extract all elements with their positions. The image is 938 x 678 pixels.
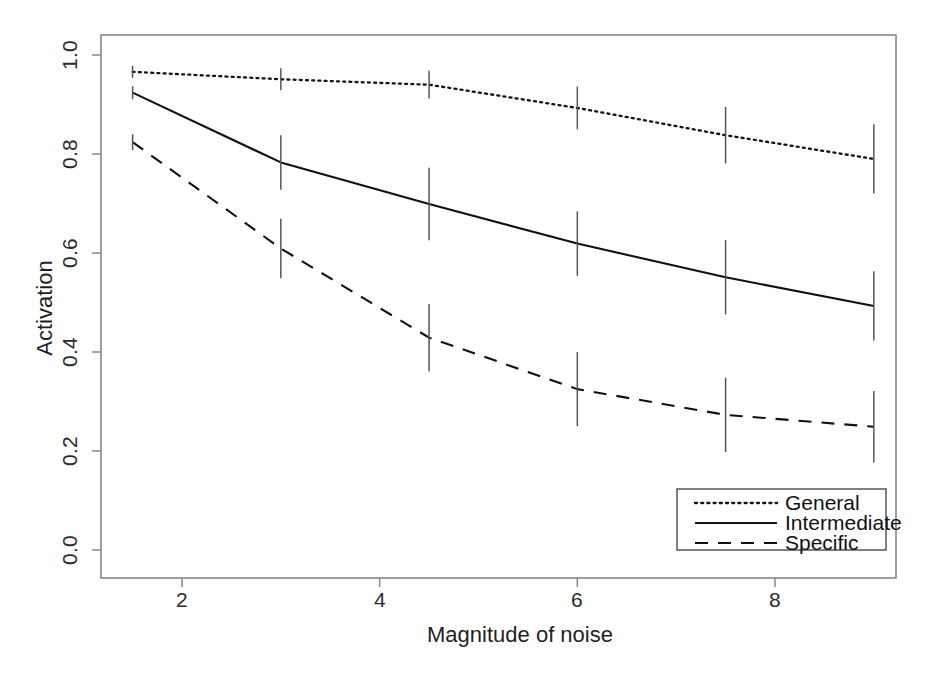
chart-figure: 0.0 0.2 0.4 0.6 0.8 1.0 2 4 6 8 Activati… [0, 0, 938, 678]
y-axis-title: Activation [32, 218, 58, 398]
y-tick-label-5: 1.0 [58, 25, 82, 85]
y-tick-label-3: 0.6 [58, 223, 82, 283]
y-tick-label-4: 0.8 [58, 124, 82, 184]
legend-label-specific: Specific [785, 531, 859, 555]
y-tick-label-1: 0.2 [58, 421, 82, 481]
x-tick-label-1: 4 [366, 588, 394, 612]
chart-background [0, 0, 938, 678]
x-tick-label-3: 8 [761, 588, 789, 612]
y-tick-label-2: 0.4 [58, 322, 82, 382]
x-tick-label-2: 6 [563, 588, 591, 612]
y-tick-label-0: 0.0 [58, 520, 82, 580]
x-axis-title: Magnitude of noise [410, 622, 630, 648]
line-chart-plot [0, 0, 938, 678]
x-tick-label-0: 2 [168, 588, 196, 612]
